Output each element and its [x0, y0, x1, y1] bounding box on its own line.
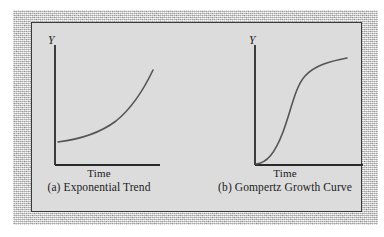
caption-block-b: Time (b) Gompertz Growth Curve	[207, 167, 363, 194]
exponential-curve	[58, 70, 153, 142]
plot-gompertz-growth-curve: Y Time (b) Gompertz Growth Curve	[207, 23, 363, 211]
figure-caption-a: (a) Exponential Trend	[14, 181, 184, 194]
gompertz-curve	[256, 58, 347, 164]
plot-exponential-trend: Y Time (a) Exponential Trend	[32, 23, 202, 211]
y-axis-label-a: Y	[48, 35, 54, 47]
caption-block-a: Time (a) Exponential Trend	[14, 167, 184, 194]
x-axis-label-b: Time	[207, 167, 363, 179]
x-axis-label-a: Time	[14, 167, 184, 179]
y-axis-label-b: Y	[249, 35, 255, 47]
figure-panel: Y Time (a) Exponential Trend Y Time (b) …	[31, 22, 362, 212]
figure-page: Y Time (a) Exponential Trend Y Time (b) …	[0, 0, 384, 237]
figure-caption-b: (b) Gompertz Growth Curve	[207, 181, 363, 194]
